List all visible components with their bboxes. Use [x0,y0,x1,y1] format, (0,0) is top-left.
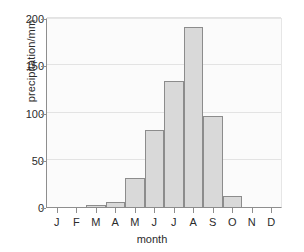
x-axis-tick-march: M [86,216,106,228]
x-axis-tick-mark [154,208,155,213]
x-axis-tick-january: J [47,216,67,228]
bar-may [125,178,145,208]
x-axis-tick-november: N [242,216,262,228]
y-axis-tick-50: 50 [4,155,44,167]
x-axis-tick-mark [193,208,194,213]
gridline [47,17,281,18]
bar-october [223,196,243,208]
x-axis-tick-august: A [183,216,203,228]
x-axis-tick-june: J [144,216,164,228]
x-axis-tick-may: M [125,216,145,228]
x-axis-tick-mark [232,208,233,213]
x-axis-tick-mark [115,208,116,213]
x-axis-tick-mark [135,208,136,213]
x-axis-tick-december: D [261,216,281,228]
x-axis-tick-mark [174,208,175,213]
bar-july [164,81,184,208]
y-axis-tick-200: 200 [4,13,44,25]
y-axis-tick-150: 150 [4,60,44,72]
bars-group [47,19,281,208]
x-axis-tick-july: J [164,216,184,228]
y-axis-tick-0: 0 [4,202,44,214]
x-axis-tick-mark [76,208,77,213]
x-axis-tick-mark [213,208,214,213]
x-axis-tick-september: S [203,216,223,228]
y-axis-tick-100: 100 [4,108,44,120]
x-axis-tick-mark [57,208,58,213]
x-axis-tick-mark [271,208,272,213]
x-axis-tick-mark [252,208,253,213]
x-axis-tick-october: O [222,216,242,228]
x-axis-tick-february: F [66,216,86,228]
bar-august [184,27,204,208]
x-axis-tick-april: A [105,216,125,228]
y-axis-tick-mark [41,208,46,209]
bar-september [203,116,223,208]
x-axis-tick-mark [96,208,97,213]
bar-june [145,130,165,208]
precipitation-bar-chart: precipitation/mm 050100150200 JFMAMJJASO… [0,0,304,252]
x-axis-label: month [0,233,304,245]
